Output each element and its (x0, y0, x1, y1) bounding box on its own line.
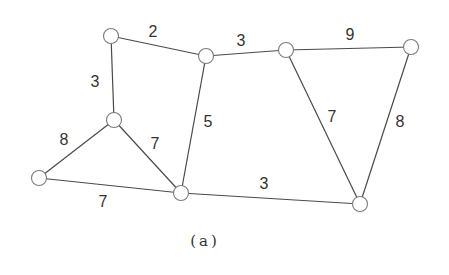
edge-E-F (39, 120, 114, 178)
edge-weight-label: 8 (396, 113, 405, 130)
node-D (404, 40, 419, 55)
nodes-layer (32, 29, 419, 212)
edge-F-G (39, 178, 181, 193)
edge-weight-label: 8 (60, 131, 69, 148)
edge-weight-label: 9 (346, 26, 355, 43)
edges-layer (39, 36, 411, 204)
edge-C-H (286, 50, 360, 204)
node-H (353, 197, 368, 212)
edge-G-H (181, 193, 360, 204)
edge-weight-label: 3 (237, 32, 246, 49)
node-F (32, 171, 47, 186)
edge-weight-label: 7 (99, 193, 108, 210)
node-B (199, 49, 214, 64)
edge-B-G (181, 56, 206, 193)
node-E (107, 113, 122, 128)
figure-caption: (a) (180, 232, 230, 250)
edge-E-G (114, 120, 181, 193)
edge-B-C (206, 50, 286, 56)
edge-weight-label: 5 (204, 113, 213, 130)
edge-A-B (111, 36, 206, 56)
edge-weight-label: 3 (91, 73, 100, 90)
node-G (174, 186, 189, 201)
edge-A-E (111, 36, 114, 120)
edge-weight-label: 2 (149, 23, 158, 40)
node-A (104, 29, 119, 44)
edge-weight-label: 7 (151, 135, 160, 152)
edge-weight-label: 7 (328, 108, 337, 125)
edge-weight-label: 3 (260, 175, 269, 192)
edge-C-D (286, 47, 411, 50)
node-C (279, 43, 294, 58)
